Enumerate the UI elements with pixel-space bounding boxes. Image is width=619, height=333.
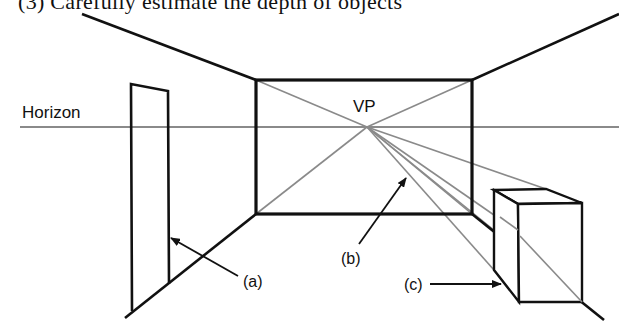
horizon-label: Horizon <box>22 103 81 122</box>
ceiling-right-edge <box>472 14 619 80</box>
vp-label: VP <box>353 97 376 116</box>
callout-a-label: (a) <box>243 273 263 290</box>
door <box>131 84 169 311</box>
box <box>494 189 582 302</box>
perspective-diagram: Horizon VP (a) (b) (c) <box>0 0 619 333</box>
floor-left-edge <box>125 214 256 318</box>
arrow-a <box>171 238 238 276</box>
ceiling-left-edge <box>82 14 256 80</box>
callout-c-label: (c) <box>404 276 423 293</box>
arrow-b <box>359 178 406 244</box>
callout-b-label: (b) <box>341 250 361 267</box>
